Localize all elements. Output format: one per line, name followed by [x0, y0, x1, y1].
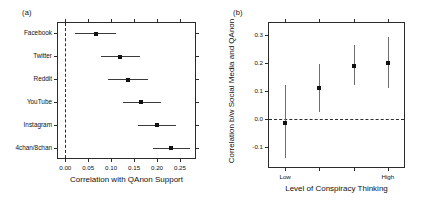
panel-a-x-tick — [157, 159, 158, 162]
panel-b-y-tick-label: 0.3 — [242, 31, 263, 38]
panel-a-y-tick-right — [196, 102, 199, 103]
panel-b-x-tick-top — [285, 19, 286, 22]
panel-b-plot-frame — [268, 22, 405, 168]
panel-a: (a) 0.000.050.100.150.200.25FacebookTwit… — [0, 0, 210, 207]
panel-a-category-label: 4chan/8chan — [0, 144, 52, 151]
panel-a-y-tick-right — [196, 148, 199, 149]
panel-a-y-tick — [54, 148, 57, 149]
panel-a-y-tick-right — [196, 56, 199, 57]
figure-container: (a) 0.000.050.100.150.200.25FacebookTwit… — [0, 0, 421, 207]
panel-b-y-tick-label: 0.1 — [242, 87, 263, 94]
panel-a-category-label: Twitter — [0, 52, 52, 59]
panel-a-y-tick — [54, 125, 57, 126]
panel-b-y-tick — [265, 119, 268, 120]
panel-b-x-tick-top — [354, 19, 355, 22]
panel-a-x-tick — [134, 159, 135, 162]
panel-b-y-tick-label: 0.0 — [242, 115, 263, 122]
panel-b-data-point — [317, 86, 321, 90]
panel-a-data-point — [94, 32, 98, 36]
panel-b-x-tick — [354, 168, 355, 171]
panel-b-y-tick — [265, 91, 268, 92]
panel-a-category-label: Instagram — [0, 121, 52, 128]
panel-a-data-point — [169, 146, 173, 150]
panel-a-x-tick — [65, 159, 66, 162]
panel-a-zero-reference-line — [65, 23, 66, 158]
panel-b-x-tick-label: Low — [271, 173, 299, 180]
panel-a-y-tick-right — [196, 33, 199, 34]
panel-a-data-point — [126, 78, 130, 82]
panel-b-x-axis-title: Level of Conspiracy Thinking — [268, 184, 405, 193]
panel-a-y-tick-right — [196, 125, 199, 126]
panel-b-y-tick-label: 0.2 — [242, 59, 263, 66]
panel-b-x-tick — [285, 168, 286, 171]
panel-b-x-tick — [388, 168, 389, 171]
panel-a-x-tick-top — [134, 19, 135, 22]
panel-a-data-point — [118, 55, 122, 59]
panel-a-y-tick — [54, 79, 57, 80]
panel-a-data-point — [155, 123, 159, 127]
panel-a-y-tick-right — [196, 79, 199, 80]
panel-a-data-point — [139, 100, 143, 104]
panel-a-category-label: Facebook — [0, 29, 52, 36]
panel-b-data-point — [386, 61, 390, 65]
panel-a-x-tick — [180, 159, 181, 162]
panel-b: (b) -0.10.00.10.20.3LowHigh Level of Con… — [205, 0, 421, 207]
panel-b-y-tick — [265, 35, 268, 36]
panel-a-y-tick — [54, 33, 57, 34]
panel-a-x-tick-top — [65, 19, 66, 22]
panel-b-x-tick — [319, 168, 320, 171]
panel-a-x-axis-title: Correlation with QAnon Support — [57, 175, 196, 184]
panel-a-x-tick-label: 0.25 — [166, 164, 194, 171]
panel-b-x-tick-top — [319, 19, 320, 22]
panel-b-x-tick-top — [388, 19, 389, 22]
panel-b-y-tick — [265, 147, 268, 148]
panel-b-y-tick — [265, 63, 268, 64]
panel-b-label: (b) — [233, 8, 243, 17]
panel-a-x-tick — [88, 159, 89, 162]
panel-a-y-tick — [54, 56, 57, 57]
panel-a-category-label: YouTube — [0, 98, 52, 105]
panel-a-label: (a) — [22, 8, 32, 17]
panel-a-x-tick-top — [88, 19, 89, 22]
panel-b-y-tick-label: -0.1 — [242, 143, 263, 150]
panel-b-data-point — [283, 121, 287, 125]
panel-b-data-point — [352, 64, 356, 68]
panel-a-x-tick — [111, 159, 112, 162]
panel-a-x-tick-top — [157, 19, 158, 22]
panel-a-plot-frame — [57, 22, 196, 159]
panel-a-x-tick-top — [180, 19, 181, 22]
panel-b-zero-reference-line — [269, 119, 404, 120]
panel-b-x-tick-label: High — [374, 173, 402, 180]
panel-a-y-tick — [54, 102, 57, 103]
panel-a-x-tick-top — [111, 19, 112, 22]
panel-b-y-axis-title: Correlation b/w Social Media and QAnon — [227, 18, 236, 164]
panel-a-category-label: Reddit — [0, 75, 52, 82]
